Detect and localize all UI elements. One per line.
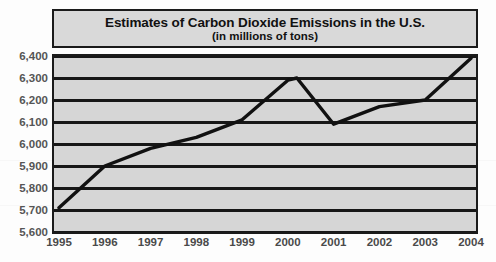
- y-axis-tick-label: 6,000: [2, 138, 48, 150]
- chart-figure: Estimates of Carbon Dioxide Emissions in…: [0, 0, 496, 262]
- y-axis-tick-label: 5,800: [2, 182, 48, 194]
- chart-title: Estimates of Carbon Dioxide Emissions in…: [105, 15, 425, 30]
- chart-subtitle: (in millions of tons): [212, 30, 318, 43]
- x-axis-tick-label: 1997: [138, 236, 164, 248]
- y-axis-labels: 5,6005,7005,8005,9006,0006,1006,2006,300…: [0, 54, 48, 234]
- data-series-line: [54, 56, 476, 232]
- chart-title-box: Estimates of Carbon Dioxide Emissions in…: [52, 9, 478, 48]
- y-axis-tick-label: 6,300: [2, 72, 48, 84]
- x-axis-tick-label: 2003: [412, 236, 438, 248]
- y-axis-tick-label: 6,400: [2, 50, 48, 62]
- x-axis-tick-label: 2004: [458, 236, 484, 248]
- y-axis-tick-label: 5,700: [2, 204, 48, 216]
- y-axis-tick-label: 6,200: [2, 94, 48, 106]
- x-axis-tick-label: 2001: [321, 236, 347, 248]
- y-axis-tick-label: 5,900: [2, 160, 48, 172]
- x-axis-tick-label: 2002: [367, 236, 393, 248]
- plot-area: [52, 54, 478, 234]
- x-axis-tick-label: 1998: [184, 236, 210, 248]
- y-axis-tick-label: 5,600: [2, 226, 48, 238]
- x-axis-labels: 1995199619971998199920002001200220032004: [52, 236, 478, 256]
- x-axis-tick-label: 2000: [275, 236, 301, 248]
- y-axis-tick-label: 6,100: [2, 116, 48, 128]
- plot-inner: [54, 56, 476, 232]
- x-axis-tick-label: 1999: [229, 236, 255, 248]
- x-axis-tick-label: 1996: [92, 236, 118, 248]
- x-axis-tick-label: 1995: [46, 236, 72, 248]
